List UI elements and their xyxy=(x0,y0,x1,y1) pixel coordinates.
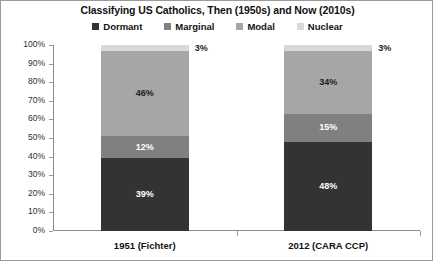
bar-segment-nuclear[interactable]: 3% xyxy=(284,45,372,51)
bar-segment-dormant[interactable]: 48% xyxy=(284,142,372,231)
stacked-bar-chart: Classifying US Catholics, Then (1950s) a… xyxy=(0,0,433,261)
legend-item-marginal[interactable]: Marginal xyxy=(164,21,214,32)
y-axis-tick-label: 90% xyxy=(28,58,45,68)
bar-stack: 39%12%46%3% xyxy=(101,45,189,231)
x-axis-category-label: 2012 (CARA CCP) xyxy=(237,240,421,251)
bar-segment-modal[interactable]: 46% xyxy=(101,51,189,137)
x-axis-tick-mark xyxy=(237,231,238,236)
bar-segment-value-label: 15% xyxy=(319,123,337,132)
legend-label-modal: Modal xyxy=(247,21,274,32)
legend-item-modal[interactable]: Modal xyxy=(236,21,274,32)
bar-segment-marginal[interactable]: 12% xyxy=(101,136,189,158)
bar-segment-value-label: 34% xyxy=(319,78,337,87)
x-axis-tick-mark xyxy=(420,231,421,236)
y-axis-tick-label: 100% xyxy=(23,39,45,49)
bar-segment-value-label: 46% xyxy=(136,89,154,98)
bars-layer: 39%12%46%3%48%15%34%3% xyxy=(53,45,420,231)
chart-title: Classifying US Catholics, Then (1950s) a… xyxy=(1,4,433,16)
bar-segment-modal[interactable]: 34% xyxy=(284,51,372,114)
y-axis-tick-label: 10% xyxy=(28,206,45,216)
x-axis-category-label: 1951 (Fichter) xyxy=(53,240,237,251)
y-axis-tick-label: 0% xyxy=(33,225,45,235)
x-axis: 1951 (Fichter)2012 (CARA CCP) xyxy=(53,231,420,261)
bar-column[interactable]: 39%12%46%3% xyxy=(101,45,189,231)
y-axis-tick-label: 40% xyxy=(28,151,45,161)
legend-label-dormant: Dormant xyxy=(103,21,142,32)
legend-item-nuclear[interactable]: Nuclear xyxy=(297,21,343,32)
bar-segment-value-label: 48% xyxy=(319,182,337,191)
y-axis: 0%10%20%30%40%50%60%70%80%90%100% xyxy=(1,45,53,231)
y-axis-tick-label: 20% xyxy=(28,188,45,198)
y-axis-tick-label: 60% xyxy=(28,113,45,123)
bar-segment-value-label: 3% xyxy=(195,43,208,52)
legend-swatch-nuclear xyxy=(297,23,304,30)
legend-swatch-dormant xyxy=(92,23,99,30)
legend-swatch-modal xyxy=(236,23,243,30)
bar-segment-value-label: 39% xyxy=(136,190,154,199)
bar-stack: 48%15%34%3% xyxy=(284,45,372,231)
bar-segment-dormant[interactable]: 39% xyxy=(101,158,189,231)
y-axis-tick-label: 70% xyxy=(28,95,45,105)
legend-item-dormant[interactable]: Dormant xyxy=(92,21,142,32)
bar-segment-value-label: 3% xyxy=(378,43,391,52)
y-axis-tick-label: 50% xyxy=(28,132,45,142)
chart-legend: Dormant Marginal Modal Nuclear xyxy=(1,21,433,32)
legend-swatch-marginal xyxy=(164,23,171,30)
y-axis-tick-label: 80% xyxy=(28,76,45,86)
bar-segment-nuclear[interactable]: 3% xyxy=(101,45,189,51)
legend-label-nuclear: Nuclear xyxy=(308,21,343,32)
bar-segment-marginal[interactable]: 15% xyxy=(284,114,372,142)
legend-label-marginal: Marginal xyxy=(175,21,214,32)
bar-segment-value-label: 12% xyxy=(136,143,154,152)
y-axis-tick-label: 30% xyxy=(28,169,45,179)
bar-column[interactable]: 48%15%34%3% xyxy=(284,45,372,231)
